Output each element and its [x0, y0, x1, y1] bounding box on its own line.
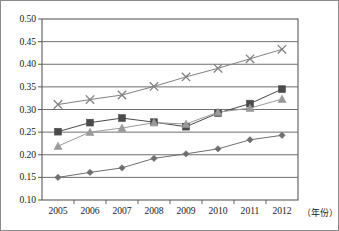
x-axis-label: 2009 — [169, 205, 203, 216]
x-axis-label: 2011 — [233, 205, 267, 216]
x-axis-label: 2006 — [73, 205, 107, 216]
x-axis-title: （年份） — [302, 206, 338, 219]
x-axis-label: 2010 — [201, 205, 235, 216]
y-axis-label: 0.25 — [2, 126, 36, 137]
y-axis-label: 0.40 — [2, 58, 36, 69]
y-axis-label: 0.20 — [2, 149, 36, 160]
marker-square — [119, 115, 126, 122]
chart-canvas — [0, 0, 339, 231]
y-axis-label: 0.15 — [2, 171, 36, 182]
y-axis-label: 0.50 — [2, 13, 36, 24]
y-axis-label: 0.10 — [2, 194, 36, 205]
marker-square — [279, 86, 286, 93]
y-axis-label: 0.45 — [2, 36, 36, 47]
marker-square — [87, 119, 94, 126]
x-axis-label: 2012 — [265, 205, 299, 216]
y-axis-label: 0.35 — [2, 81, 36, 92]
x-axis-label: 2005 — [41, 205, 75, 216]
x-axis-label: 2007 — [105, 205, 139, 216]
x-axis-label: 2008 — [137, 205, 171, 216]
line-chart: 0.100.150.200.250.300.350.400.450.50 200… — [0, 0, 339, 231]
y-axis-label: 0.30 — [2, 104, 36, 115]
marker-square — [55, 128, 62, 135]
